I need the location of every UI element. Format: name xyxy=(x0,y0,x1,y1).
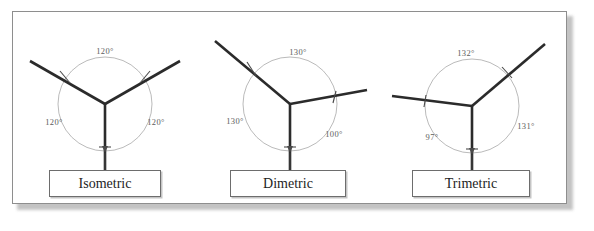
label-box-trimetric: Trimetric xyxy=(412,170,530,197)
panel-isometric: 120° 120° 120° Isometric xyxy=(12,11,197,204)
angle-label-left: 130° xyxy=(226,116,243,126)
angle-label-right: 120° xyxy=(147,117,164,127)
axonometric-figure: 120° 120° 120° Isometric 130° 130 xyxy=(0,0,594,231)
axis-line-right xyxy=(290,90,367,104)
arrow-head-bottom xyxy=(469,148,475,155)
angle-label-top: 132° xyxy=(457,48,474,58)
angle-label-left: 97° xyxy=(426,132,439,142)
axis-line-right xyxy=(105,61,180,104)
angle-label-top: 130° xyxy=(289,47,306,57)
axis-line-left xyxy=(392,96,472,106)
axis-line-right xyxy=(472,44,545,106)
axis-line-left xyxy=(30,61,105,104)
label-box-isometric: Isometric xyxy=(49,170,161,197)
angle-label-top: 120° xyxy=(96,46,113,56)
angle-label-right: 100° xyxy=(325,129,342,139)
label-box-dimetric: Dimetric xyxy=(230,170,346,197)
angle-label-right: 131° xyxy=(517,121,534,131)
angle-label-left: 120° xyxy=(45,117,62,127)
arrow-head-bottom xyxy=(102,146,108,153)
axis-line-left xyxy=(215,41,290,104)
panel-row: 120° 120° 120° Isometric 130° 130 xyxy=(12,11,567,204)
arrow-head-bottom xyxy=(287,146,293,153)
panel-trimetric: 132° 97° 131° Trimetric xyxy=(382,11,567,204)
panel-dimetric: 130° 130° 100° Dimetric xyxy=(197,11,382,204)
